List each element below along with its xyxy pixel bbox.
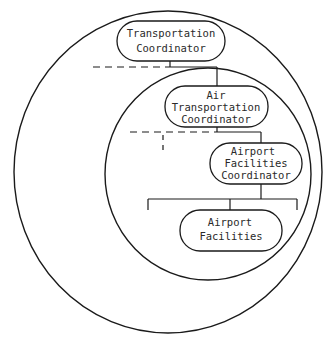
node-airport-facilities-coordinator: Airport Facilities Coordinator (210, 143, 302, 184)
node-label-line: Transportation (172, 101, 261, 113)
connector-air-to-airport-coordinator (217, 127, 261, 143)
node-label-line: Airport (208, 216, 252, 228)
node-label-line: Coordinator (221, 169, 291, 181)
node-airport-facilities: Airport Facilities (180, 210, 282, 251)
node-label-line: Facilities (199, 230, 262, 242)
node-label-line: Transportation (127, 27, 216, 39)
node-label-line: Coordinator (136, 42, 206, 54)
node-label-line: Airport (231, 145, 275, 157)
node-air-transportation-coordinator: Air Transportation Coordinator (165, 86, 268, 127)
node-transportation-coordinator: Transportation Coordinator (117, 21, 225, 61)
node-label-line: Coordinator (181, 113, 251, 125)
org-diagram: Transportation Coordinator Air Transport… (0, 0, 333, 342)
connector-coordinator-to-facilities (148, 184, 297, 210)
node-label-line: Air (207, 89, 226, 101)
node-label-line: Facilities (224, 157, 287, 169)
